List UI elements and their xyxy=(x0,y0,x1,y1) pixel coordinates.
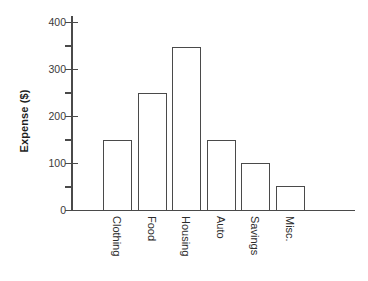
bar-food[interactable] xyxy=(138,93,167,210)
bar-housing[interactable] xyxy=(172,47,201,211)
y-tick-label-200: 200 xyxy=(36,111,66,121)
x-tick-label-housing: Housing xyxy=(179,216,193,256)
y-tick-minor-350 xyxy=(65,45,72,47)
x-tick-label-food: Food xyxy=(145,216,159,241)
bar-chart: Expense ($) 400 300 200 100 0 Clothing F… xyxy=(0,0,368,281)
x-tick-label-auto: Auto xyxy=(214,216,228,239)
y-tick-minor-150 xyxy=(65,139,72,141)
y-tick-label-300: 300 xyxy=(36,64,66,74)
y-tick-label-100: 100 xyxy=(36,158,66,168)
y-tick-major-400 xyxy=(65,22,78,24)
y-tick-minor-250 xyxy=(65,92,72,94)
x-tick-label-clothing: Clothing xyxy=(110,216,124,256)
y-tick-major-0 xyxy=(65,210,78,212)
bar-clothing[interactable] xyxy=(103,140,132,211)
y-tick-minor-50 xyxy=(65,186,72,188)
y-tick-major-200 xyxy=(65,116,78,118)
y-tick-label-400: 400 xyxy=(36,17,66,27)
y-tick-major-300 xyxy=(65,69,78,71)
y-axis-title: Expense ($) xyxy=(16,26,32,216)
x-tick-label-savings: Savings xyxy=(248,216,262,255)
bar-savings[interactable] xyxy=(241,163,270,210)
bar-auto[interactable] xyxy=(207,140,236,211)
x-tick-label-misc: Misc. xyxy=(283,216,297,242)
y-tick-major-100 xyxy=(65,163,78,165)
bar-misc[interactable] xyxy=(276,186,305,210)
y-tick-label-0: 0 xyxy=(36,205,66,215)
